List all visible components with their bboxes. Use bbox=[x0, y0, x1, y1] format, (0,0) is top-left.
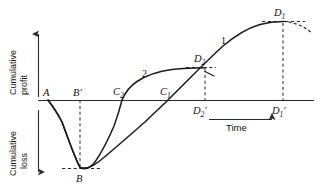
curve-2-path bbox=[48, 68, 206, 169]
point-label-c2: C2 bbox=[113, 86, 124, 100]
point-label-d2-prime: D2′ bbox=[192, 105, 207, 119]
cumulative-profit-loss-chart: A B B′ C2 C1 D2 D2′ D1 D1′ 2 1 Time Cumu… bbox=[0, 0, 318, 187]
cumulative-loss-label-line2: loss bbox=[19, 152, 29, 169]
point-label-c1: C1 bbox=[160, 86, 171, 100]
point-label-d1-prime: D1′ bbox=[271, 105, 286, 119]
cumulative-profit-label-line2: profit bbox=[19, 74, 29, 95]
point-label-d2: D2 bbox=[193, 53, 206, 67]
point-label-a: A bbox=[42, 87, 50, 98]
crossing-tick-mark bbox=[205, 72, 214, 77]
point-label-b-prime: B′ bbox=[73, 87, 82, 98]
time-axis-label: Time bbox=[226, 122, 247, 133]
point-label-d1: D1 bbox=[273, 7, 285, 21]
cumulative-loss-label-line1: Cumulative bbox=[8, 131, 18, 176]
point-label-b: B bbox=[76, 173, 83, 184]
curve-1-number-label: 1 bbox=[221, 35, 226, 46]
curve-2-number-label: 2 bbox=[142, 68, 147, 79]
cumulative-profit-label-line1: Cumulative bbox=[8, 50, 18, 95]
curve-1-dashed-tail bbox=[283, 21, 312, 33]
